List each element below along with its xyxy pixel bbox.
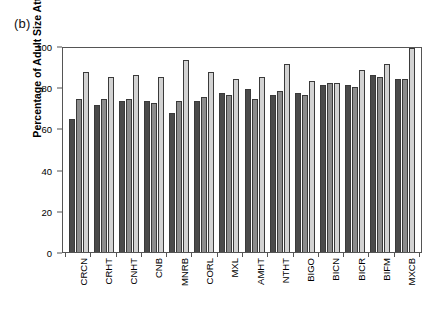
x-label-slot: BICR <box>343 256 368 312</box>
bar <box>277 91 283 252</box>
bar <box>76 99 82 252</box>
x-axis-labels: CRCNCRHTCNHTCNBMNRBCORLMXLAMHTNTHTBIGOBI… <box>62 256 422 312</box>
y-tick-label: 20 <box>41 206 52 217</box>
x-tick-label: BIFM <box>381 258 393 310</box>
bar <box>245 89 251 252</box>
bar-group <box>368 48 393 252</box>
bar <box>151 103 157 252</box>
x-label-slot: MXCB <box>394 256 419 312</box>
x-tick-label: NTHT <box>280 258 292 310</box>
bar-group <box>66 48 91 252</box>
x-label-slot: BIGO <box>293 256 318 312</box>
x-label-slot: AMHT <box>242 256 267 312</box>
x-tick-label: CORL <box>204 258 216 310</box>
x-label-slot: CRCN <box>65 256 90 312</box>
bar <box>233 79 239 252</box>
x-label-slot: CRHT <box>90 256 115 312</box>
bar <box>334 83 340 252</box>
plot-area <box>62 47 422 253</box>
bar <box>320 85 326 252</box>
x-tick-label: CRHT <box>103 258 115 310</box>
bar <box>108 77 114 252</box>
y-tick-label: 40 <box>41 165 52 176</box>
bar <box>302 95 308 252</box>
bar <box>402 79 408 252</box>
bar <box>252 99 258 252</box>
x-tick-label: MXL <box>229 258 241 310</box>
x-label-slot: BIFM <box>368 256 393 312</box>
bar <box>395 79 401 252</box>
bar <box>409 48 415 252</box>
x-tick-label: BICR <box>356 258 368 310</box>
bar-group <box>393 48 418 252</box>
bar <box>359 70 365 252</box>
y-axis-ticks: 020406080100 <box>0 47 62 253</box>
bar <box>295 93 301 252</box>
bar-group <box>192 48 217 252</box>
bar <box>284 64 290 252</box>
x-label-slot: CORL <box>191 256 216 312</box>
bar <box>133 75 139 252</box>
bar <box>345 85 351 252</box>
bar <box>259 77 265 252</box>
x-label-slot: NTHT <box>267 256 292 312</box>
bar <box>119 101 125 252</box>
bar <box>201 97 207 252</box>
bar <box>69 119 75 252</box>
bar <box>126 99 132 252</box>
bar <box>226 95 232 252</box>
bars-layer <box>63 48 421 252</box>
bar <box>270 95 276 252</box>
bar <box>183 60 189 252</box>
bar <box>219 93 225 252</box>
bar <box>101 99 107 252</box>
bar <box>169 113 175 252</box>
x-tick-label: MXCB <box>406 258 418 310</box>
y-tick-label: 0 <box>47 248 52 259</box>
figure-panel-b: (b) Percentage of Adult Size Attained 02… <box>0 0 439 314</box>
bar <box>352 87 358 252</box>
bar <box>158 77 164 252</box>
x-label-slot: CNHT <box>116 256 141 312</box>
x-label-slot: CNB <box>141 256 166 312</box>
bar-group <box>242 48 267 252</box>
bar-group <box>141 48 166 252</box>
bar <box>377 77 383 252</box>
bar-group <box>292 48 317 252</box>
bar <box>384 64 390 252</box>
bar <box>327 83 333 252</box>
bar <box>94 105 100 252</box>
bar-group <box>317 48 342 252</box>
bar <box>208 72 214 252</box>
x-tick-label: BIGO <box>305 258 317 310</box>
x-label-slot: MXL <box>217 256 242 312</box>
bar <box>370 75 376 252</box>
x-label-slot: MNRB <box>166 256 191 312</box>
x-tick-label: CNB <box>153 258 165 310</box>
bar <box>194 101 200 252</box>
x-tick-label: CRCN <box>78 258 90 310</box>
bar-group <box>116 48 141 252</box>
bar-group <box>217 48 242 252</box>
x-tick-label: AMHT <box>255 258 267 310</box>
x-tick-label: CNHT <box>128 258 140 310</box>
x-label-slot: BICN <box>318 256 343 312</box>
y-tick-label: 60 <box>41 124 52 135</box>
bar <box>144 101 150 252</box>
bar <box>309 81 315 252</box>
bar-group <box>343 48 368 252</box>
bar <box>176 101 182 252</box>
y-tick-label: 100 <box>36 42 52 53</box>
x-tick-label: MNRB <box>179 258 191 310</box>
y-tick-label: 80 <box>41 83 52 94</box>
bar-group <box>167 48 192 252</box>
bar <box>83 72 89 252</box>
bar-group <box>91 48 116 252</box>
bar-group <box>267 48 292 252</box>
x-tick-label: BICN <box>330 258 342 310</box>
